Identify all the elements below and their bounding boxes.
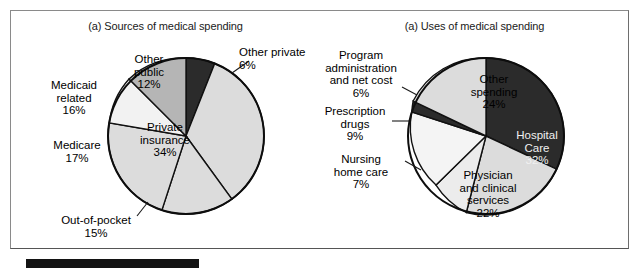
slice-label-physician-and-clinical-services: Physician and clinical services 22% [444,169,532,219]
outer-label-out-of-pocket: Out-of-pocket 15% [50,214,142,239]
slice-label-other-spending: Other spending 24% [454,73,534,111]
slice-label-hospital-care: Hospital Care 32% [501,129,573,167]
panel-sources-of-medical-spending: (a) Sources of medical spending Privat [11,11,320,248]
slice-label-other-public: Other public 12% [118,53,180,91]
slice-label-medicare: Medicare 17% [38,139,116,164]
leader-line-program-administration [402,87,417,95]
slice-label-private-insurance: Private insurance 34% [126,121,204,159]
slice-label-medicaid-related: Medicaid related 16% [35,79,113,117]
outer-label-nursing-home-care: Nursing home care 7% [320,153,402,191]
panel-uses-of-medical-spending: (a) Uses of medical spending [320,11,629,248]
outer-label-prescription-drugs: Prescription drugs 9% [320,105,390,143]
bottom-rule-marker [26,259,199,268]
outer-label-program-administration: Program administration and net cost 6% [320,49,402,99]
outer-label-other-private: Other private 6% [239,46,325,71]
figure-frame: (a) Sources of medical spending Privat [10,10,629,249]
